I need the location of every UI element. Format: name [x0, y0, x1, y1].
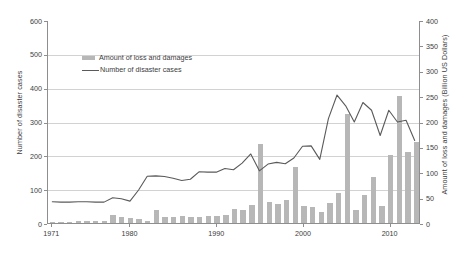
y-tick-label-right: 0 — [426, 220, 456, 229]
legend-label-disaster-cases: Number of disaster cases — [100, 64, 182, 76]
y-tick-mark-right — [420, 21, 423, 22]
chart-legend: Amount of loss and damages Number of dis… — [82, 52, 192, 76]
y-tick-label-right: 300 — [426, 67, 456, 76]
x-tick-label: 1980 — [109, 229, 149, 238]
y-tick-mark-right — [420, 123, 423, 124]
x-tick-label: 1990 — [196, 229, 236, 238]
y-tick-label-right: 250 — [426, 93, 456, 102]
bar-swatch-icon — [82, 56, 95, 60]
y-axis-left-title: Number of disaster cases — [15, 38, 24, 188]
x-tick-mark — [303, 224, 304, 227]
x-tick-mark — [390, 224, 391, 227]
y-tick-mark-right — [420, 72, 423, 73]
x-tick-label: 2010 — [370, 229, 410, 238]
chart-figure: Number of disaster cases Amount of loss … — [0, 0, 456, 256]
y-tick-label-right: 150 — [426, 143, 456, 152]
line-swatch-icon — [82, 70, 99, 71]
y-tick-label-left: 200 — [12, 152, 42, 161]
legend-label-loss-and-damages: Amount of loss and damages — [99, 52, 192, 64]
y-tick-label-right: 200 — [426, 118, 456, 127]
x-tick-mark — [216, 224, 217, 227]
y-tick-label-left: 500 — [12, 50, 42, 59]
y-tick-label-right: 350 — [426, 42, 456, 51]
y-tick-label-left: 300 — [12, 118, 42, 127]
y-tick-mark-right — [420, 199, 423, 200]
y-tick-label-right: 50 — [426, 194, 456, 203]
y-tick-mark-right — [420, 148, 423, 149]
y-tick-mark-right — [420, 97, 423, 98]
x-tick-mark — [51, 224, 52, 227]
legend-item-disaster-cases: Number of disaster cases — [82, 64, 192, 76]
y-tick-mark-right — [420, 224, 423, 225]
x-tick-label: 1971 — [31, 229, 71, 238]
y-tick-label-left: 400 — [12, 84, 42, 93]
x-tick-mark — [129, 224, 130, 227]
y-tick-mark-right — [420, 46, 423, 47]
y-tick-label-left: 100 — [12, 186, 42, 195]
y-tick-label-right: 400 — [426, 17, 456, 26]
legend-item-loss-and-damages: Amount of loss and damages — [82, 52, 192, 64]
y-tick-mark-right — [420, 173, 423, 174]
y-tick-label-left: 600 — [12, 17, 42, 26]
x-tick-label: 2000 — [283, 229, 323, 238]
y-tick-label-right: 100 — [426, 169, 456, 178]
y-tick-mark-left — [44, 224, 47, 225]
y-tick-label-left: 0 — [12, 220, 42, 229]
